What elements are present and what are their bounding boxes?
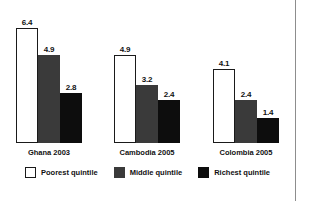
bar-colombia-2005-richest[interactable]: 1.4 <box>257 118 279 143</box>
bar-group-colombia-2005: 4.1 2.4 1.4 <box>213 27 279 143</box>
legend-item-middle-quintile[interactable]: Middle quintile <box>114 167 183 178</box>
bar-rect <box>136 85 158 143</box>
category-label-colombia-2005: Colombia 2005 <box>209 148 283 157</box>
bar-rect <box>213 69 235 143</box>
legend-item-richest-quintile[interactable]: Richest quintile <box>198 167 270 178</box>
bar-value-label: 4.1 <box>219 59 230 68</box>
legend-label: Poorest quintile <box>41 168 98 177</box>
bar-value-label: 4.9 <box>120 45 131 54</box>
bar-group-ghana-2003: 6.4 4.9 2.8 <box>16 27 82 143</box>
bar-rect <box>158 100 180 143</box>
legend-swatch-white-square-icon <box>25 167 36 178</box>
bar-ghana-2003-middle[interactable]: 4.9 <box>38 55 60 143</box>
bar-rect <box>257 118 279 143</box>
bar-value-label: 4.9 <box>44 45 55 54</box>
plot-area: 6.4 4.9 2.8 4.9 3.2 2.4 <box>0 0 295 160</box>
legend-swatch-black-square-icon <box>198 167 209 178</box>
bar-cambodia-2005-richest[interactable]: 2.4 <box>158 100 180 143</box>
bar-value-label: 2.4 <box>241 90 252 99</box>
legend-item-poorest-quintile[interactable]: Poorest quintile <box>25 167 98 178</box>
bar-colombia-2005-poorest[interactable]: 4.1 <box>213 69 235 143</box>
bar-rect <box>60 93 82 143</box>
bar-value-label: 2.8 <box>66 83 77 92</box>
bar-rect <box>38 55 60 143</box>
bar-chart-figure: 6.4 4.9 2.8 4.9 3.2 2.4 <box>0 0 309 201</box>
bar-value-label: 1.4 <box>263 108 274 117</box>
page-margin-rule <box>295 0 296 201</box>
chart-legend: Poorest quintile Middle quintile Richest… <box>0 167 295 178</box>
bar-rect <box>16 28 38 143</box>
bar-ghana-2003-richest[interactable]: 2.8 <box>60 93 82 143</box>
bar-rect <box>235 100 257 143</box>
legend-swatch-gray-square-icon <box>114 167 125 178</box>
bar-value-label: 6.4 <box>22 18 33 27</box>
bar-group-cambodia-2005: 4.9 3.2 2.4 <box>114 27 180 143</box>
bar-value-label: 3.2 <box>142 75 153 84</box>
category-label-cambodia-2005: Cambodia 2005 <box>110 148 184 157</box>
bar-ghana-2003-poorest[interactable]: 6.4 <box>16 28 38 143</box>
legend-label: Middle quintile <box>130 168 183 177</box>
bar-cambodia-2005-middle[interactable]: 3.2 <box>136 85 158 143</box>
bar-cambodia-2005-poorest[interactable]: 4.9 <box>114 55 136 143</box>
legend-label: Richest quintile <box>214 168 270 177</box>
bar-colombia-2005-middle[interactable]: 2.4 <box>235 100 257 143</box>
bar-value-label: 2.4 <box>164 90 175 99</box>
category-label-ghana-2003: Ghana 2003 <box>16 148 82 157</box>
bar-rect <box>114 55 136 143</box>
